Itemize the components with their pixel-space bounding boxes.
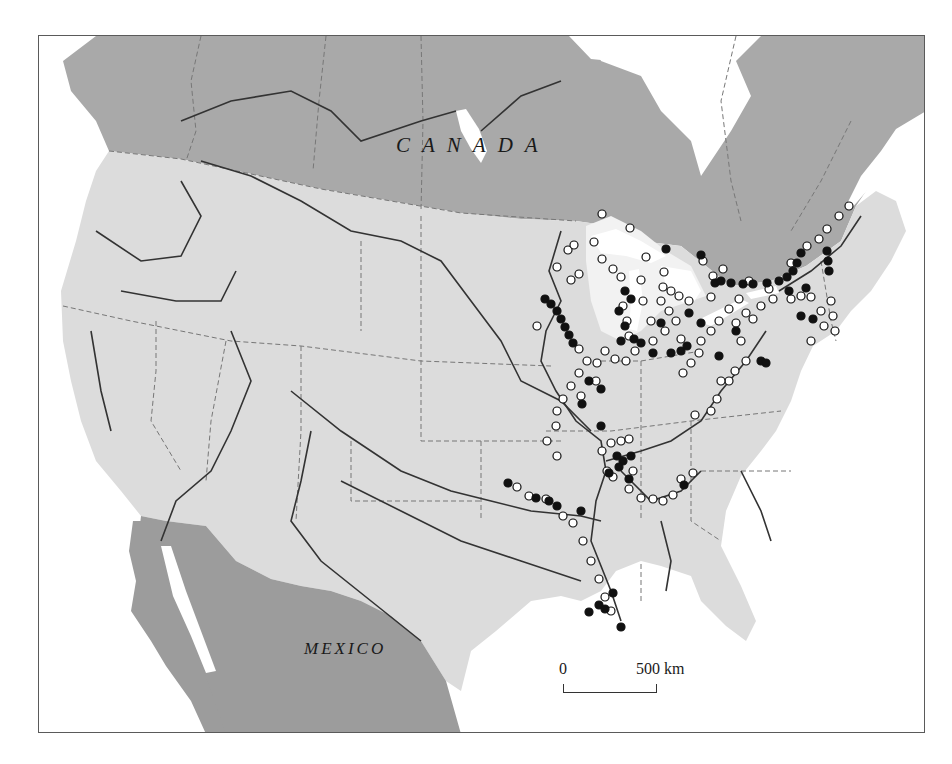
- map-frame: CANADA MEXICO 0 500 km: [38, 35, 925, 733]
- scale-line: [563, 684, 657, 693]
- country-label-mexico: MEXICO: [304, 639, 386, 659]
- savannah-river: [741, 471, 771, 541]
- country-label-canada: CANADA: [396, 133, 550, 158]
- scale-start-label: 0: [559, 660, 567, 678]
- scale-bar: 0 500 km: [559, 660, 759, 710]
- scale-end-label: 500 km: [636, 660, 684, 678]
